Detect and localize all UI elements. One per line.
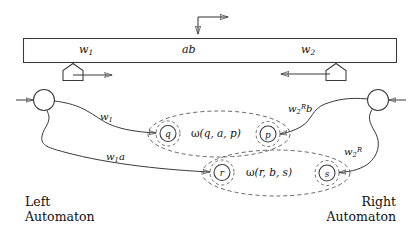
edge-label-right-to-s: w2R <box>344 147 362 159</box>
head-direction-indicator <box>198 17 228 34</box>
edge-label-left-to-r: w1a <box>106 152 125 164</box>
left-start-state <box>34 90 55 111</box>
edge-right-to-s <box>339 110 378 173</box>
right-start-state <box>368 90 389 111</box>
right-tape-head <box>281 64 346 81</box>
tape-cell-left-word: w1 <box>79 44 93 57</box>
edge-label-left-to-q: w1 <box>100 112 113 124</box>
right-automaton-caption-line2: Automaton <box>326 209 396 224</box>
left-automaton-caption: Left Automaton <box>25 194 95 225</box>
automaton-tape-diagram: w1 ab w2 w1 w1a w2Rb w2R ω(q, a, p) ω(r,… <box>0 0 416 244</box>
right-automaton-caption-line1: Right <box>326 194 396 209</box>
tape-cell-right-word: w2 <box>301 44 315 57</box>
group-label-r-b-s: ω(r, b, s) <box>246 167 292 178</box>
state-label-q: q <box>163 130 173 139</box>
edge-left-to-r <box>42 111 210 173</box>
left-head-pentagon <box>63 64 83 81</box>
right-head-pentagon <box>326 64 346 81</box>
left-automaton-caption-line2: Automaton <box>25 209 95 224</box>
tape-cell-middle-word: ab <box>182 44 196 55</box>
right-automaton-caption: Right Automaton <box>326 194 396 225</box>
state-label-p: p <box>263 131 273 140</box>
state-label-s: s <box>322 170 332 179</box>
group-label-q-a-p: ω(q, a, p) <box>191 128 241 139</box>
state-label-r: r <box>217 169 227 178</box>
edge-label-right-to-p: w2Rb <box>288 104 312 116</box>
left-tape-head <box>63 64 112 81</box>
left-automaton-caption-line1: Left <box>25 194 95 209</box>
